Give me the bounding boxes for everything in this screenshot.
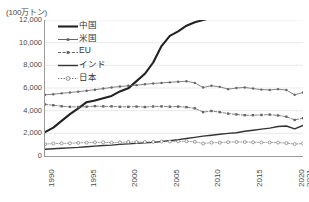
data-point-marker — [69, 91, 71, 93]
x-tick-label: 2021 — [306, 169, 309, 187]
data-point-marker — [69, 106, 71, 108]
data-point-marker — [169, 106, 171, 108]
data-point-marker — [252, 141, 255, 144]
x-tick-label: 2010 — [214, 169, 222, 187]
data-point-marker — [269, 89, 271, 91]
data-point-marker — [160, 82, 162, 84]
data-point-marker — [302, 117, 303, 119]
series-line — [45, 104, 303, 120]
data-point-marker — [219, 86, 221, 88]
data-point-marker — [235, 113, 237, 115]
legend-item-1[interactable]: 中国 — [57, 17, 119, 30]
data-point-marker — [227, 88, 229, 90]
legend-item-4[interactable]: インド — [57, 56, 119, 69]
legend-item-label: 中国 — [79, 18, 97, 30]
series-4 — [45, 125, 303, 149]
data-point-marker — [293, 119, 295, 121]
series-line — [45, 125, 303, 149]
legend-item-label: 日本 — [79, 70, 97, 82]
data-point-marker — [277, 141, 280, 144]
data-point-marker — [143, 141, 146, 144]
x-tick-label: 2000 — [131, 169, 139, 187]
data-point-marker — [94, 105, 96, 107]
data-point-marker — [94, 89, 96, 91]
data-point-marker — [260, 141, 263, 144]
dashed-line-with-square-markers-icon — [57, 44, 79, 55]
data-point-marker — [185, 80, 187, 82]
solid-thick-line-icon — [57, 18, 79, 29]
solid-medium-line-icon — [57, 57, 79, 68]
data-point-marker — [252, 87, 254, 89]
data-point-marker — [60, 105, 62, 107]
data-point-marker — [144, 83, 146, 85]
x-tick-label: 2005 — [173, 169, 181, 187]
legend-item-2[interactable]: 米国 — [57, 30, 119, 43]
legend-item-5[interactable]: 日本 — [57, 69, 119, 82]
data-point-marker — [93, 141, 96, 144]
data-point-marker — [285, 89, 287, 91]
data-point-marker — [277, 88, 279, 90]
y-axis-tick-labels: 12,00010,0008,0006,0004,0002,0000 — [0, 0, 42, 202]
data-point-marker — [152, 105, 154, 107]
x-tick-label: 1995 — [90, 169, 98, 187]
data-point-marker — [285, 115, 287, 117]
y-tick-label: 0 — [2, 152, 42, 160]
data-point-marker — [293, 94, 295, 96]
data-point-marker — [85, 106, 87, 108]
legend-item-label: 米国 — [79, 31, 97, 43]
data-point-marker — [160, 105, 162, 107]
data-point-marker — [135, 105, 137, 107]
data-point-marker — [194, 82, 196, 84]
data-point-marker — [52, 93, 54, 95]
data-point-marker — [77, 141, 80, 144]
data-point-marker — [202, 111, 204, 113]
data-point-marker — [102, 105, 104, 107]
y-tick-label: 2,000 — [2, 129, 42, 137]
data-point-marker — [260, 88, 262, 90]
data-point-marker — [227, 141, 230, 144]
data-point-marker — [244, 114, 246, 116]
data-point-marker — [119, 85, 121, 87]
data-point-marker — [52, 142, 55, 145]
data-point-marker — [110, 86, 112, 88]
data-point-marker — [85, 141, 88, 144]
data-point-marker — [68, 142, 71, 145]
x-tick-label: 1990 — [48, 169, 56, 187]
data-point-marker — [243, 141, 246, 144]
data-point-marker — [118, 141, 121, 144]
data-point-marker — [227, 112, 229, 114]
data-point-marker — [77, 106, 79, 108]
data-point-marker — [285, 142, 288, 145]
dotted-line-with-open-circle-markers-icon — [57, 70, 79, 81]
data-point-marker — [127, 140, 130, 143]
data-point-marker — [169, 81, 171, 83]
data-point-marker — [45, 94, 46, 96]
y-tick-label: 8,000 — [2, 61, 42, 69]
x-tick-label: 2015 — [256, 169, 264, 187]
data-point-marker — [135, 84, 137, 86]
data-point-marker — [268, 141, 271, 144]
data-point-marker — [102, 87, 104, 89]
data-point-marker — [219, 111, 221, 113]
legend-item-label: インド — [79, 57, 106, 69]
data-point-marker — [235, 87, 237, 89]
data-point-marker — [194, 107, 196, 109]
x-axis-tick-labels: 19901995200020052010201520202021 — [44, 157, 306, 202]
data-point-marker — [110, 105, 112, 107]
data-point-marker — [202, 142, 205, 145]
data-point-marker — [193, 140, 196, 143]
chart-legend: 中国米国EUインド日本 — [57, 17, 119, 82]
line-with-dot-markers-icon — [57, 31, 79, 42]
data-point-marker — [277, 114, 279, 116]
data-point-marker — [160, 140, 163, 143]
data-point-marker — [302, 142, 304, 145]
series-3 — [45, 103, 303, 121]
legend-item-3[interactable]: EU — [57, 43, 119, 56]
data-point-marker — [135, 141, 138, 144]
data-point-marker — [45, 143, 47, 146]
data-point-marker — [235, 140, 238, 143]
data-point-marker — [210, 110, 212, 112]
data-point-marker — [177, 105, 179, 107]
data-point-marker — [45, 103, 46, 105]
data-point-marker — [260, 114, 262, 116]
